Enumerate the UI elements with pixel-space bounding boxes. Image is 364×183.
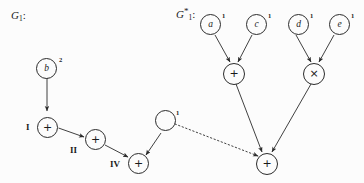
node-e-superscript: 1 [351,13,354,20]
node-g1-IV-glyph: + [134,158,143,169]
node-e[interactable]: e [329,14,350,35]
graph-label-g1: G1: [11,10,26,22]
node-a-superscript: 1 [222,13,225,20]
graph-label-g1-star-base: G [176,8,184,20]
node-g1-IV[interactable]: + [128,153,149,174]
node-g1-II-glyph: + [91,134,100,145]
graph-label-g1-base: G [11,9,19,21]
node-d-glyph: d [296,20,301,30]
node-g1-I-glyph: + [43,122,52,133]
node-g1-III[interactable] [155,110,176,131]
edge-III-to-root-plus-dotted [175,124,258,156]
edge-II-to-IV [105,145,128,157]
node-plus-root-glyph: + [262,158,271,169]
edge-e-to-times [319,35,334,62]
node-e-glyph: e [337,20,341,30]
node-g1-I[interactable]: + [37,117,58,138]
dataflow-graph-figure: G1: G*1: b 2 + I + II 1 + IV a 1 c 1 d 1… [0,0,364,183]
node-g1-I-roman-label: I [26,123,30,132]
node-g1-II-roman-label: II [70,146,77,155]
edge-I-to-II [59,128,85,137]
node-g1-III-superscript: 1 [176,110,179,117]
graph-label-g1-colon: : [23,9,26,21]
node-d-superscript: 1 [310,13,313,20]
node-plus-ac-glyph: + [229,68,238,79]
edge-c-to-plus [238,35,252,62]
node-times-de-glyph: × [309,68,318,79]
node-plus-ac[interactable]: + [223,63,245,85]
node-c-glyph: c [254,20,258,30]
edge-d-to-times [296,35,311,62]
node-a[interactable]: a [200,14,221,35]
graph-label-g1-star: G*1: [176,7,195,21]
node-a-glyph: a [208,20,213,30]
edge-a-to-plus [215,35,230,62]
node-d[interactable]: d [288,14,309,35]
node-plus-root[interactable]: + [256,153,278,175]
edge-times-to-root-plus [272,84,311,152]
node-c[interactable]: c [246,14,267,35]
node-g1-IV-roman-label: IV [110,160,120,169]
node-c-superscript: 1 [268,13,271,20]
graph-label-g1-star-colon: : [192,8,195,20]
node-b[interactable]: b [36,58,57,79]
edge-layer [0,0,364,183]
edge-plus-to-root-plus [236,84,262,152]
node-times-de[interactable]: × [303,63,325,85]
node-b-superscript: 2 [59,57,62,64]
node-b-glyph: b [44,64,49,74]
edge-III-to-IV [146,133,161,155]
node-g1-II[interactable]: + [85,129,106,150]
